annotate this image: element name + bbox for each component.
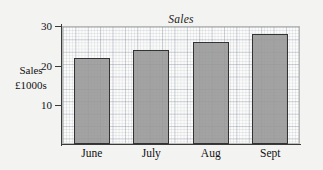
bar-chart-figure: Sales Sales £1000s 30 20 10 June July Au… xyxy=(0,0,323,170)
y-axis-line xyxy=(61,24,62,146)
y-axis-title-line-2: £1000s xyxy=(8,78,54,93)
y-tick-mark-20 xyxy=(55,66,62,67)
y-tick-mark-30 xyxy=(55,26,62,27)
bar-aug xyxy=(193,42,229,144)
chart-title: Sales xyxy=(62,13,300,26)
x-label-june: June xyxy=(62,147,122,160)
bar-june xyxy=(74,58,110,145)
x-label-july: July xyxy=(122,147,182,160)
x-label-sept: Sept xyxy=(241,147,301,160)
x-label-aug: Aug xyxy=(181,147,241,160)
y-tick-label-30: 30 xyxy=(12,21,52,32)
y-tick-label-10: 10 xyxy=(12,100,52,111)
y-tick-mark-10 xyxy=(55,105,62,106)
x-axis-line xyxy=(61,144,301,145)
bar-july xyxy=(133,50,169,144)
y-tick-label-20: 20 xyxy=(12,61,52,72)
bar-sept xyxy=(252,34,288,144)
